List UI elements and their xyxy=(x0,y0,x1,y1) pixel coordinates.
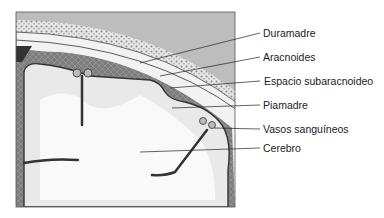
label-cerebro: Cerebro xyxy=(263,142,301,154)
label-duramadre: Duramadre xyxy=(263,27,316,39)
meninges-diagram xyxy=(0,0,384,218)
vessel-1 xyxy=(73,69,81,77)
label-vasos-sanguineos: Vasos sanguíneos xyxy=(263,123,349,135)
vessel-4 xyxy=(209,122,216,129)
label-aracnoides: Aracnoides xyxy=(263,51,316,63)
vessel-3 xyxy=(200,118,207,125)
vessel-2 xyxy=(84,69,92,77)
label-espacio-subaracnoideo: Espacio subaracnoideo xyxy=(264,75,373,87)
label-piamadre: Piamadre xyxy=(263,99,308,111)
